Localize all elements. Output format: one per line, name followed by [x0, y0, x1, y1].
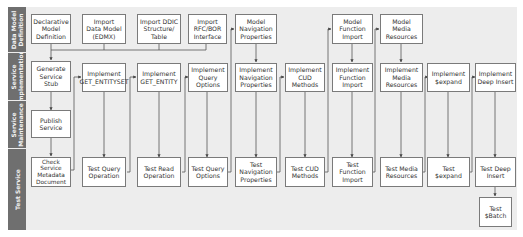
box-import-rfc-bor-interface: Import RFC/BOR Interface: [188, 14, 227, 44]
box-import-ddic-structure: Import DDIC Structure/ Table: [137, 14, 181, 44]
box-implement-cud-methods: Implement CUD Methods: [285, 63, 325, 92]
box-generate-service-stub: Generate Service Stub: [31, 61, 71, 92]
box-test-deep-insert: Test Deep Insert: [475, 157, 516, 187]
box-model-navigation-properties: Model Navigation Properties: [235, 14, 277, 44]
box-import-data-model-edmx: Import Data Model (EDMX): [82, 14, 126, 44]
box-test-batch: Test $Batch: [479, 197, 512, 227]
box-implement-expand: Implement $expand: [427, 63, 470, 92]
box-implement-function-import: Implement Function Import: [332, 63, 373, 92]
box-model-function-import: Model Function Import: [332, 14, 373, 44]
box-test-read-operation: Test Read Operation: [137, 157, 181, 187]
box-test-media-resources: Test Media Resources: [380, 157, 423, 187]
box-test-navigation-properties: Test Navigation Properties: [235, 157, 277, 187]
box-implement-get-entity: Implement GET_ENTITY: [137, 63, 181, 92]
box-declarative-model-definition: Declarative Model Definition: [31, 14, 71, 44]
box-implement-navigation-properties: Implement Navigation Properties: [235, 63, 277, 92]
service-development-flow-diagram: Data Model Definition Service Implementa…: [0, 0, 523, 237]
box-test-cud-methods: Test CUD Methods: [285, 157, 325, 187]
box-implement-query-options: Implement Query Options: [188, 63, 228, 92]
box-test-function-import: Test Function Import: [332, 157, 373, 187]
box-model-media-resources: Model Media Resources: [380, 14, 423, 44]
box-publish-service: Publish Service: [31, 110, 71, 138]
box-test-expand: Test $expand: [427, 157, 470, 187]
box-implement-deep-insert: Implement Deep Insert: [475, 63, 516, 92]
box-test-query-options: Test Query Options: [188, 157, 228, 187]
box-check-service-metadata-document: Check Service Metadata Document: [31, 157, 71, 187]
box-implement-get-entityset: Implement GET_ENTITYSET: [82, 63, 126, 92]
box-test-query-operation: Test Query Operation: [82, 157, 126, 187]
box-implement-media-resources: Implement Media Resources: [380, 63, 423, 92]
